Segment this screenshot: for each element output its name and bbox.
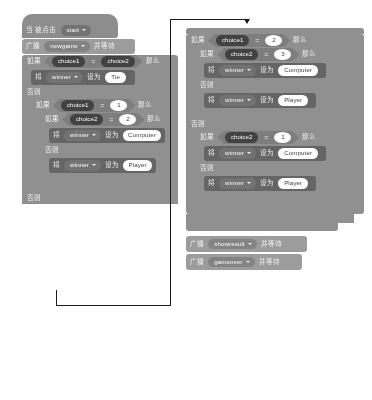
broadcast-newgame-and-wait-block[interactable]: 广播 newgame 并等待 [22,39,135,54]
script-closing-edge [186,214,354,223]
and-wait-label: 并等待 [259,259,280,266]
winner-value-input[interactable]: Player [123,160,152,170]
set-winner-computer-block[interactable]: 将 winner 设为 Computer [204,146,326,161]
winner-value-input[interactable]: Computer [278,65,318,75]
broadcast-message-dropdown[interactable]: showresult [208,239,257,249]
variable-choice1[interactable]: choice1 [61,100,94,110]
when-flag-clicked-hat-block[interactable]: 当 被点击 start [22,14,118,38]
chevron-down-icon [81,45,85,47]
chevron-down-icon [247,69,251,71]
winner-variable-dropdown[interactable]: winner [219,178,256,188]
if-choice2-equals-2-block[interactable]: 如果 choice2 = 2 那么 将 [40,113,177,184]
else-header[interactable]: 否则 [40,145,177,156]
else-keyword-label: 否则 [27,89,41,96]
if-header[interactable]: 如果 choice1 = 1 那么 [31,99,177,112]
number-input[interactable]: 2 [119,114,136,125]
winner-value-input[interactable]: Player [278,95,308,105]
if-block-footer [195,193,364,203]
set-to-label: 设为 [105,132,119,139]
then-keyword-label: 那么 [302,134,316,141]
broadcast-label: 广播 [26,43,40,50]
broadcast-showresult-and-wait-block[interactable]: 广播 showresult 并等待 [186,236,307,252]
else-body-slot: 如果 choice1 = 1 那么 如果 [22,98,178,192]
set-winner-tie-block[interactable]: 将 winner 设为 Tie [31,70,135,85]
winner-variable-value: winner [225,66,244,74]
if-keyword-label: 如果 [191,37,205,44]
set-keyword-label: 将 [208,150,215,157]
winner-value-input[interactable]: Computer [123,130,161,140]
if-keyword-label: 如果 [36,102,50,109]
tail-else-header[interactable]: 否则 [22,192,178,204]
variable-choice2[interactable]: choice2 [101,56,134,66]
variable-choice1[interactable]: choice1 [216,35,249,45]
if-body-slot: 将 winner 设为 Tie [22,68,178,87]
if-keyword-label: 如果 [27,58,41,65]
else-body-slot: 将 winner 设为 Player [195,91,364,110]
if-choice1-equals-choice2-block[interactable]: 如果 choice1 = choice2 那么 将 winner 设为 Tie [22,55,178,204]
variable-choice2[interactable]: choice2 [225,49,258,59]
set-keyword-label: 将 [35,74,42,81]
winner-variable-dropdown[interactable]: winner [64,160,101,170]
if-header[interactable]: 如果 choice2 = 1 那么 [195,131,364,144]
broadcast-gameover-and-wait-block[interactable]: 广播 gameover 并等待 [186,254,302,270]
winner-variable-dropdown[interactable]: winner [219,148,256,158]
set-winner-player-block[interactable]: 将 winner 设为 Player [204,93,316,108]
set-winner-player-block[interactable]: 将 winner 设为 Player [49,158,156,173]
winner-variable-value: winner [225,96,244,104]
winner-value-input[interactable]: Player [278,178,308,188]
and-wait-label: 并等待 [261,241,282,248]
if-choice2-equals-3-block[interactable]: 如果 choice2 = 3 那么 将 winner [195,48,364,119]
set-winner-player-block[interactable]: 将 winner 设为 Player [204,176,316,191]
set-winner-computer-block[interactable]: 将 winner 设为 Computer [49,128,165,143]
else-header-outer[interactable]: 否则 [22,87,178,98]
equals-operator-block[interactable]: choice1 = 2 [208,34,290,47]
outer-if-footer [186,203,364,214]
if-body-slot: 将 winner 设为 Computer [195,144,364,163]
if-header[interactable]: 如果 choice2 = 2 那么 [40,113,177,126]
set-keyword-label: 将 [208,97,215,104]
then-keyword-label: 那么 [147,116,161,123]
if-keyword-label: 如果 [200,51,214,58]
if-body-slot: 如果 choice2 = 3 那么 将 winner [186,47,364,119]
else-keyword-label: 否则 [191,121,205,128]
number-input[interactable]: 1 [274,132,291,143]
equals-operator-block[interactable]: choice2 = 1 [217,131,299,144]
equals-operator-block[interactable]: choice2 = 2 [62,113,144,126]
broadcast-message-dropdown[interactable]: newgame [44,41,90,51]
equals-operator-block[interactable]: choice2 = 3 [217,48,299,61]
winner-variable-dropdown[interactable]: winner [64,130,101,140]
variable-choice2[interactable]: choice2 [70,114,103,124]
set-winner-computer-block[interactable]: 将 winner 设为 Computer [204,63,326,78]
equals-operator-block[interactable]: choice1 = 1 [53,99,135,112]
connector-arrowhead-icon [244,19,250,24]
hat-block-body[interactable]: 当 被点击 start [22,23,118,38]
number-input[interactable]: 1 [110,100,127,111]
if-header[interactable]: 如果 choice1 = choice2 那么 [22,55,178,68]
number-input[interactable]: 3 [274,49,291,60]
if-choice1-equals-1-block[interactable]: 如果 choice1 = 1 那么 如果 [31,99,177,192]
equals-operator-block[interactable]: choice1 = choice2 [44,55,143,67]
outer-else-header[interactable]: 否则 [186,119,364,130]
if-header[interactable]: 如果 choice2 = 3 那么 [195,48,364,61]
winner-variable-dropdown[interactable]: winner [219,95,256,105]
variable-choice1[interactable]: choice1 [52,56,85,66]
broadcast-label: 广播 [190,259,204,266]
winner-value-input[interactable]: Computer [278,148,318,158]
equals-sign: = [263,51,269,58]
winner-variable-dropdown[interactable]: winner [219,65,256,75]
if-choice1-equals-2-block[interactable]: 如果 choice1 = 2 那么 如果 choice2 = 3 [186,34,364,214]
right-script-stack[interactable]: 如果 choice1 = 2 那么 如果 choice2 = 3 [186,28,364,270]
winner-variable-dropdown[interactable]: winner [46,72,83,82]
if-choice2-equals-1-block[interactable]: 如果 choice2 = 1 那么 将 winner [195,131,364,203]
variable-choice2[interactable]: choice2 [225,132,258,142]
winner-variable-value: winner [70,131,89,139]
winner-value-input[interactable]: Tie [105,72,126,82]
else-header[interactable]: 否则 [195,163,364,174]
if-header[interactable]: 如果 choice1 = 2 那么 [186,34,364,47]
winner-variable-value: winner [52,73,71,81]
hat-dropdown[interactable]: start [61,25,92,35]
number-input[interactable]: 2 [265,35,282,46]
broadcast-message-dropdown[interactable]: gameover [208,257,254,267]
left-script-stack[interactable]: 当 被点击 start 广播 newgame 并等待 如果 choice1 [22,14,182,204]
else-header[interactable]: 否则 [195,80,364,91]
